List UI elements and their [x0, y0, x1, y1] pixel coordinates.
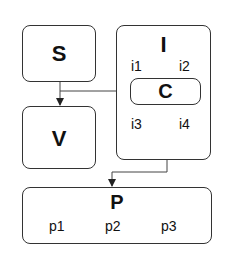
node-i-label: I	[117, 32, 210, 58]
node-p-item-p3: p3	[161, 218, 177, 234]
node-s-label: S	[23, 41, 95, 67]
node-c-label: C	[131, 80, 200, 103]
node-v-label: V	[23, 126, 95, 152]
node-p-item-p1: p1	[49, 218, 65, 234]
node-i-item-i1: i1	[131, 58, 142, 74]
node-i-item-i4: i4	[179, 116, 190, 132]
node-c: C	[130, 78, 201, 105]
node-i-item-i3: i3	[131, 116, 142, 132]
node-s: S	[22, 25, 96, 82]
node-p: P p1 p2 p3	[22, 187, 212, 244]
node-v: V	[22, 106, 96, 169]
edge-i-to-p	[112, 160, 167, 186]
node-i-item-i2: i2	[179, 58, 190, 74]
node-p-item-p2: p2	[105, 218, 121, 234]
node-p-label: P	[23, 191, 211, 214]
